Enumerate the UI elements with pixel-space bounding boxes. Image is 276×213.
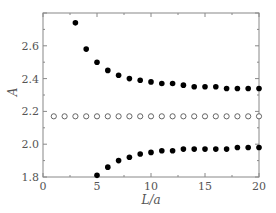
open-circle-marker (170, 114, 175, 119)
filled-circle-marker (256, 86, 262, 92)
filled-circle-marker (170, 81, 176, 87)
y-tick-label: 2.0 (22, 138, 40, 151)
open-circle-marker (246, 114, 251, 119)
filled-circle-marker (116, 73, 122, 79)
x-tick-label: 10 (144, 180, 158, 193)
series-upper-branch (73, 20, 262, 91)
open-circle-marker (127, 114, 132, 119)
filled-circle-marker (213, 84, 219, 90)
x-tick-label: 0 (40, 180, 47, 193)
open-circle-marker (148, 114, 153, 119)
open-circle-marker (256, 114, 261, 119)
filled-circle-marker (181, 146, 187, 152)
filled-circle-marker (224, 86, 230, 92)
open-circle-marker (138, 114, 143, 119)
open-circle-marker (235, 114, 240, 119)
filled-circle-marker (148, 150, 154, 156)
filled-circle-marker (213, 146, 219, 152)
open-circle-marker (224, 114, 229, 119)
filled-circle-marker (256, 145, 262, 151)
x-tick-label: 5 (94, 180, 101, 193)
filled-circle-marker (94, 59, 100, 65)
filled-circle-marker (202, 146, 208, 152)
open-circle-marker (62, 114, 67, 119)
filled-circle-marker (202, 84, 208, 90)
y-tick-label: 2.6 (22, 40, 40, 53)
open-circle-marker (51, 114, 56, 119)
open-circle-marker (94, 114, 99, 119)
filled-circle-marker (224, 146, 230, 152)
y-tick-label: 2.4 (22, 73, 40, 86)
open-circle-marker (192, 114, 197, 119)
filled-circle-marker (83, 46, 89, 52)
filled-circle-marker (105, 164, 111, 170)
filled-circle-marker (73, 20, 79, 26)
open-circle-marker (213, 114, 218, 119)
y-tick-label: 1.8 (22, 171, 40, 184)
x-tick-label: 15 (198, 180, 212, 193)
filled-circle-marker (116, 158, 122, 164)
open-circle-marker (105, 114, 110, 119)
open-circle-marker (181, 114, 186, 119)
filled-circle-marker (235, 145, 241, 151)
y-axis-label: A (6, 87, 20, 97)
filled-circle-marker (159, 148, 165, 154)
open-circle-marker (116, 114, 121, 119)
scatter-chart: 051015201.82.02.22.42.6 L/a A (0, 0, 276, 213)
filled-circle-marker (94, 173, 100, 179)
x-axis-label: L/a (140, 193, 160, 207)
data-points (51, 20, 262, 178)
filled-circle-marker (105, 68, 111, 74)
open-circle-marker (73, 114, 78, 119)
series-middle-constant (51, 114, 261, 119)
open-circle-marker (159, 114, 164, 119)
filled-circle-marker (245, 86, 251, 92)
filled-circle-marker (245, 145, 251, 151)
filled-circle-marker (191, 146, 197, 152)
filled-circle-marker (191, 84, 197, 90)
filled-circle-marker (235, 86, 241, 92)
x-tick-label: 20 (252, 180, 266, 193)
filled-circle-marker (148, 79, 154, 85)
filled-circle-marker (127, 155, 133, 161)
filled-circle-marker (137, 151, 143, 157)
open-circle-marker (84, 114, 89, 119)
filled-circle-marker (137, 77, 143, 83)
y-tick-label: 2.2 (22, 105, 40, 118)
open-circle-marker (202, 114, 207, 119)
filled-circle-marker (127, 76, 133, 82)
filled-circle-marker (181, 82, 187, 88)
filled-circle-marker (159, 81, 165, 87)
filled-circle-marker (170, 148, 176, 154)
series-lower-branch (94, 145, 262, 178)
